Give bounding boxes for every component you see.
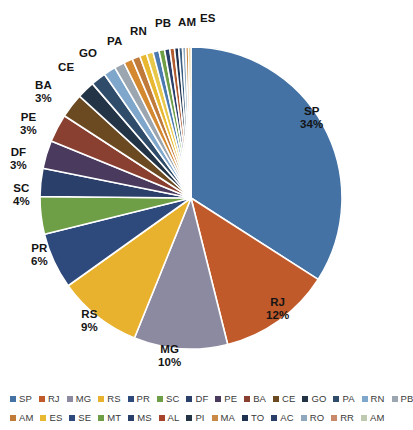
legend-item-am-0[interactable]: AM <box>10 412 33 423</box>
legend-swatch-icon <box>128 396 134 402</box>
legend-label: PA <box>342 393 354 404</box>
legend-swatch-icon <box>186 415 192 421</box>
legend-label: RN <box>371 393 385 404</box>
legend-item-rr-11[interactable]: RR <box>331 412 354 423</box>
legend-item-rj-1[interactable]: RJ <box>39 393 60 404</box>
legend-item-pi-6[interactable]: PI <box>186 412 204 423</box>
legend-item-se-2[interactable]: SE <box>69 412 91 423</box>
legend-swatch-icon <box>302 396 308 402</box>
legend-swatch-icon <box>98 396 104 402</box>
legend-label: GO <box>311 393 326 404</box>
slice-label-ba-name: BA <box>35 79 52 91</box>
legend-label: RJ <box>48 393 60 404</box>
slice-label-ba-pct: 3% <box>35 92 52 105</box>
legend-swatch-icon <box>244 396 250 402</box>
legend-item-pa-11[interactable]: PA <box>333 393 354 404</box>
legend-row-2: AMESSEMTMSALPIMATOACRORRAM <box>0 408 392 427</box>
legend-item-to-8[interactable]: TO <box>242 412 264 423</box>
legend-swatch-icon <box>10 415 16 421</box>
legend-swatch-icon <box>40 415 46 421</box>
legend-label: AC <box>280 412 293 423</box>
legend-swatch-icon <box>392 396 398 402</box>
slice-label-pa-name: PA <box>107 35 122 47</box>
legend-swatch-icon <box>273 396 279 402</box>
legend-label: CE <box>282 393 295 404</box>
slice-label-sp-pct: 34% <box>300 118 323 131</box>
slice-label-am-name: AM <box>178 16 196 28</box>
legend-item-mg-2[interactable]: MG <box>67 393 92 404</box>
legend-label: MS <box>137 412 151 423</box>
legend-item-rs-3[interactable]: RS <box>98 393 120 404</box>
legend-swatch-icon <box>362 396 368 402</box>
slice-label-pb-name: PB <box>155 17 171 29</box>
slice-label-df-pct: 3% <box>10 159 27 172</box>
slice-label-rj: RJ 12% <box>266 296 289 322</box>
slice-label-rj-name: RJ <box>270 296 285 308</box>
legend-item-sp-0[interactable]: SP <box>10 393 32 404</box>
pie-plot-area: SP 34% RJ 12% MG 10% RS 9% PR 6% SC 4% D… <box>38 12 344 374</box>
legend-item-ma-7[interactable]: MA <box>212 412 235 423</box>
legend-label: PR <box>137 393 150 404</box>
legend-swatch-icon <box>10 396 16 402</box>
legend-item-pb-13[interactable]: PB <box>392 393 413 404</box>
legend-item-ac-9[interactable]: AC <box>271 412 293 423</box>
legend-item-pe-7[interactable]: PE <box>215 393 237 404</box>
legend-label: AM <box>370 412 384 423</box>
legend-swatch-icon <box>39 396 45 402</box>
legend-item-df-6[interactable]: DF <box>186 393 208 404</box>
slice-label-rs: RS 9% <box>81 308 98 334</box>
legend-item-sc-5[interactable]: SC <box>157 393 179 404</box>
slice-label-sp: SP 34% <box>300 105 323 131</box>
slice-label-sc-pct: 4% <box>13 195 30 208</box>
legend-label: PE <box>224 393 237 404</box>
legend-label: RS <box>107 393 120 404</box>
slice-label-go: GO <box>79 47 97 60</box>
legend-swatch-icon <box>242 415 248 421</box>
legend-swatch-icon <box>128 415 134 421</box>
legend-label: AL <box>168 412 180 423</box>
legend-swatch-icon <box>67 396 73 402</box>
legend-item-ba-8[interactable]: BA <box>244 393 266 404</box>
legend-item-es-1[interactable]: ES <box>40 412 62 423</box>
legend-item-ro-10[interactable]: RO <box>301 412 324 423</box>
legend-item-ce-9[interactable]: CE <box>273 393 295 404</box>
legend-swatch-icon <box>69 415 75 421</box>
slice-label-rj-pct: 12% <box>266 309 289 322</box>
slice-label-rn-name: RN <box>130 25 147 37</box>
legend-item-ms-4[interactable]: MS <box>128 412 151 423</box>
slice-label-es-name: ES <box>200 12 216 24</box>
legend-label: TO <box>251 412 264 423</box>
slice-label-mg: MG 10% <box>158 343 181 369</box>
slice-label-pr: PR 6% <box>31 242 48 268</box>
slice-label-sc: SC 4% <box>13 182 30 208</box>
slice-label-rs-pct: 9% <box>81 321 98 334</box>
legend-item-go-10[interactable]: GO <box>302 393 326 404</box>
slice-label-rn: RN <box>130 25 147 38</box>
legend-item-rn-12[interactable]: RN <box>362 393 385 404</box>
legend-label: BA <box>253 393 266 404</box>
legend-row-1: SPRJMGRSPRSCDFPEBACEGOPARNPB <box>0 389 392 408</box>
legend-item-mt-3[interactable]: MT <box>98 412 121 423</box>
legend-swatch-icon <box>301 415 307 421</box>
legend-label: AM <box>19 412 33 423</box>
slice-label-mg-pct: 10% <box>158 356 181 369</box>
slice-label-sp-name: SP <box>304 105 320 117</box>
slice-label-mg-name: MG <box>160 343 179 355</box>
legend-swatch-icon <box>212 415 218 421</box>
legend-item-pr-4[interactable]: PR <box>128 393 150 404</box>
legend-item-al-5[interactable]: AL <box>159 412 180 423</box>
legend-item-am-12[interactable]: AM <box>361 412 384 423</box>
slice-label-pe-pct: 3% <box>20 124 37 137</box>
slice-label-pr-name: PR <box>31 242 47 254</box>
legend-label: RR <box>340 412 354 423</box>
legend-swatch-icon <box>331 415 337 421</box>
legend-label: SC <box>166 393 179 404</box>
legend-swatch-icon <box>186 396 192 402</box>
slice-label-es: ES <box>200 12 216 25</box>
legend-swatch-icon <box>157 396 163 402</box>
slice-label-ba: BA 3% <box>35 79 52 105</box>
legend-label: SP <box>19 393 32 404</box>
legend-label: PB <box>401 393 413 404</box>
legend-swatch-icon <box>333 396 339 402</box>
slice-label-ce: CE <box>58 61 74 74</box>
